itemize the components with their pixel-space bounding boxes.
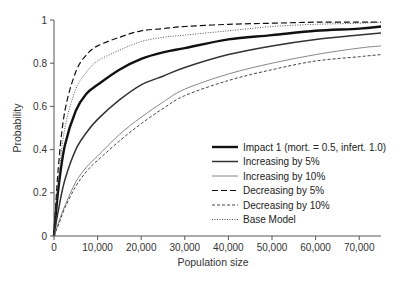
legend-label: Impact 1 (mort. = 0.5, infert. 1.0) — [243, 142, 386, 153]
x-axis-label: Population size — [177, 256, 248, 268]
legend-label: Base Model — [243, 214, 296, 225]
y-tick-label: 0.4 — [33, 144, 47, 155]
y-tick-label: 0.6 — [33, 101, 47, 112]
y-tick-label: 1 — [41, 15, 47, 26]
y-axis: 00.20.40.60.81 — [33, 15, 54, 242]
legend-label: Decreasing by 10% — [243, 200, 330, 211]
x-axis: 010,00020,00030,00040,00050,00060,00070,… — [51, 236, 381, 253]
x-tick-label: 20,000 — [126, 242, 157, 253]
x-tick-label: 10,000 — [82, 242, 113, 253]
y-tick-label: 0.2 — [33, 187, 47, 198]
legend-label: Increasing by 5% — [243, 156, 320, 167]
x-tick-label: 0 — [51, 242, 57, 253]
y-tick-label: 0 — [41, 231, 47, 242]
x-tick-label: 70,000 — [344, 242, 375, 253]
y-axis-label: Probability — [11, 103, 23, 153]
legend-label: Increasing by 10% — [243, 171, 325, 182]
x-tick-label: 60,000 — [300, 242, 331, 253]
series-line — [54, 33, 381, 236]
series-line — [54, 22, 381, 236]
series-line — [54, 22, 381, 236]
x-tick-label: 40,000 — [213, 242, 244, 253]
plot-lines — [54, 22, 381, 236]
x-tick-label: 30,000 — [170, 242, 201, 253]
x-tick-label: 50,000 — [257, 242, 288, 253]
legend: Impact 1 (mort. = 0.5, infert. 1.0)Incre… — [212, 142, 386, 226]
line-chart: 00.20.40.60.81 010,00020,00030,00040,000… — [0, 0, 399, 284]
y-tick-label: 0.8 — [33, 58, 47, 69]
legend-label: Decreasing by 5% — [243, 185, 324, 196]
